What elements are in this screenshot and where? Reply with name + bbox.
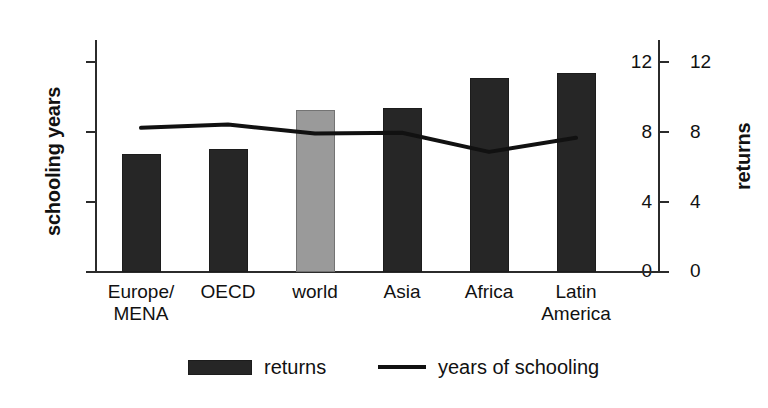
chart-legend: returns years of schooling	[0, 352, 768, 392]
line-series	[95, 40, 660, 272]
legend-label-years-of-schooling: years of schooling	[438, 356, 599, 379]
plot-area	[95, 40, 660, 272]
tick-left-4	[86, 201, 95, 203]
tick-left-0	[86, 271, 95, 273]
chart-figure: schooling years returns 12 8 4 0 12 8 4 …	[0, 0, 768, 408]
category-label-latin-america: Latin America	[516, 281, 636, 325]
legend-bar-swatch-icon	[188, 360, 252, 375]
y-axis-right-title: returns	[732, 122, 755, 190]
legend-label-returns: returns	[264, 356, 326, 379]
tick-left-12	[86, 61, 95, 63]
tick-right-8	[660, 131, 669, 133]
y-axis-left-title: schooling years	[42, 87, 65, 236]
tick-right-12	[660, 61, 669, 63]
tick-left-8	[86, 131, 95, 133]
y-axis-right-tick-8: 8	[690, 122, 730, 141]
y-axis-right-tick-12: 12	[690, 52, 730, 71]
y-axis-right-tick-0: 0	[690, 261, 730, 280]
legend-item-years-of-schooling: years of schooling	[378, 352, 599, 382]
tick-right-0	[660, 271, 669, 273]
legend-item-returns: returns	[188, 352, 326, 382]
legend-line-swatch-icon	[378, 365, 426, 369]
years-of-schooling-line	[141, 125, 576, 152]
tick-right-4	[660, 201, 669, 203]
y-axis-right-tick-4: 4	[690, 192, 730, 211]
